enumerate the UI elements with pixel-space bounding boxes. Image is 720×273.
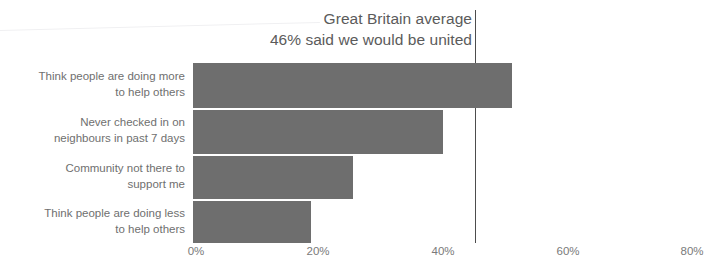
category-label-line1: Think people are doing more: [10, 68, 185, 84]
category-label: Never checked in on neighbours in past 7…: [10, 114, 185, 146]
plot-area: Think people are doing more to help othe…: [0, 0, 720, 273]
bar-segment[interactable]: [193, 63, 512, 108]
category-label-line2: support me: [10, 176, 185, 192]
category-label-line1: Think people are doing less: [10, 205, 185, 221]
category-label-line1: Never checked in on: [10, 114, 185, 130]
category-label: Community not there to support me: [10, 160, 185, 192]
category-label-line2: neighbours in past 7 days: [10, 130, 185, 146]
bar-chart: Great Britain average 46% said we would …: [0, 0, 720, 273]
category-label-line2: to help others: [10, 221, 185, 237]
bar-segment[interactable]: [193, 156, 353, 199]
category-label-line1: Community not there to: [10, 160, 185, 176]
x-axis-tick-label: 0%: [166, 244, 226, 258]
x-axis-tick-label: 20%: [288, 244, 348, 258]
x-axis-tick-label: 40%: [413, 244, 473, 258]
category-label: Think people are doing more to help othe…: [10, 68, 185, 100]
bar-segment[interactable]: [193, 201, 311, 243]
bar-segment[interactable]: [193, 110, 443, 154]
category-label-line2: to help others: [10, 84, 185, 100]
x-axis-tick-label: 60%: [538, 244, 598, 258]
category-label: Think people are doing less to help othe…: [10, 205, 185, 237]
x-axis-tick-label: 80%: [662, 244, 720, 258]
